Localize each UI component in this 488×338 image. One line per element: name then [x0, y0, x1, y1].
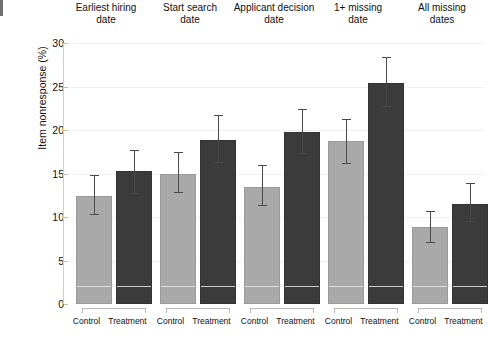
- plot-area: [316, 43, 400, 304]
- panel-title: All missingdates: [400, 2, 484, 26]
- x-axis-label-control: Control: [234, 316, 275, 326]
- error-bar-cap-lower: [382, 106, 391, 107]
- x-axis-labels: ControlTreatment: [400, 316, 484, 326]
- x-axis-labels: ControlTreatment: [232, 316, 316, 326]
- bar-control[interactable]: [328, 141, 364, 304]
- x-axis-label-treatment: Treatment: [359, 316, 400, 326]
- bar-control[interactable]: [160, 174, 196, 305]
- error-bar-cap-lower: [426, 242, 435, 243]
- panel-title-line-1: Earliest hiring: [64, 2, 148, 14]
- error-bar-cap-upper: [298, 109, 307, 110]
- bar-inner-reference-line: [77, 286, 111, 287]
- x-axis-group-bracket: [166, 308, 230, 313]
- error-bar: [470, 184, 471, 222]
- error-bar-cap-upper: [342, 119, 351, 120]
- error-bar: [218, 116, 219, 163]
- bar-treatment[interactable]: [200, 140, 236, 304]
- bar-inner-reference-line: [285, 286, 319, 287]
- x-axis-label-treatment: Treatment: [275, 316, 316, 326]
- y-axis: 051015202530: [20, 0, 64, 338]
- error-bar-cap-upper: [466, 183, 475, 184]
- bar-treatment[interactable]: [368, 83, 404, 304]
- x-axis-label-control: Control: [318, 316, 359, 326]
- panel-title: Earliest hiringdate: [64, 2, 148, 26]
- x-axis-group-bracket: [418, 308, 482, 313]
- x-axis-label-treatment: Treatment: [443, 316, 484, 326]
- error-bar-cap-lower: [130, 193, 139, 194]
- error-bar-cap-lower: [174, 192, 183, 193]
- x-axis-group-bracket: [250, 308, 314, 313]
- panel-title: Applicant decisiondate: [232, 2, 316, 26]
- left-edge-artifact: [0, 0, 3, 16]
- panel-title-line-2: dates: [400, 14, 484, 26]
- x-axis-label-control: Control: [402, 316, 443, 326]
- y-axis-tick-mark: [64, 217, 68, 218]
- y-axis-tick-mark: [64, 304, 68, 305]
- facet-panel: Applicant decisiondateControlTreatment: [232, 0, 316, 338]
- panel-title-line-1: Start search: [148, 2, 232, 14]
- error-bar: [430, 212, 431, 243]
- x-axis-labels: ControlTreatment: [316, 316, 400, 326]
- bar-inner-reference-line: [201, 286, 235, 287]
- error-bar-cap-lower: [90, 214, 99, 215]
- error-bar: [302, 110, 303, 154]
- x-axis-label-control: Control: [150, 316, 191, 326]
- x-axis-group-bracket: [334, 308, 398, 313]
- error-bar: [262, 166, 263, 206]
- x-axis-label-treatment: Treatment: [191, 316, 232, 326]
- panel-title-line-2: date: [148, 14, 232, 26]
- error-bar-cap-lower: [342, 163, 351, 164]
- facet-panel: 1+ missingdateControlTreatment: [316, 0, 400, 338]
- bar-inner-reference-line: [413, 286, 447, 287]
- bar-inner-reference-line: [369, 286, 403, 287]
- x-axis-labels: ControlTreatment: [64, 316, 148, 326]
- error-bar-cap-upper: [214, 115, 223, 116]
- y-axis-tick-mark: [64, 130, 68, 131]
- panel-title-line-2: date: [316, 14, 400, 26]
- panel-title: Start searchdate: [148, 2, 232, 26]
- y-axis-tick-mark: [64, 174, 68, 175]
- error-bar-cap-lower: [214, 162, 223, 163]
- error-bar-cap-upper: [130, 150, 139, 151]
- error-bar: [178, 153, 179, 193]
- x-axis-label-treatment: Treatment: [107, 316, 148, 326]
- bar-treatment[interactable]: [284, 132, 320, 304]
- plot-area: [232, 43, 316, 304]
- y-axis-tick-mark: [64, 43, 68, 44]
- error-bar-cap-upper: [258, 165, 267, 166]
- error-bar-cap-upper: [90, 175, 99, 176]
- plot-area: [400, 43, 484, 304]
- error-bar-cap-lower: [258, 205, 267, 206]
- error-bar-cap-upper: [174, 152, 183, 153]
- error-bar-cap-lower: [298, 153, 307, 154]
- panel-title: 1+ missingdate: [316, 2, 400, 26]
- bar-inner-reference-line: [117, 286, 151, 287]
- error-bar: [386, 58, 387, 108]
- panel-title-line-1: All missing: [400, 2, 484, 14]
- bar-inner-reference-line: [245, 286, 279, 287]
- facet-panel: Start searchdateControlTreatment: [148, 0, 232, 338]
- y-axis-tick-mark: [64, 87, 68, 88]
- x-axis-group-bracket: [82, 308, 146, 313]
- error-bar-cap-lower: [466, 221, 475, 222]
- error-bar: [134, 151, 135, 194]
- panel-title-line-2: date: [232, 14, 316, 26]
- y-axis-tick-mark: [64, 261, 68, 262]
- panel-row: Earliest hiringdateControlTreatmentStart…: [64, 0, 484, 338]
- bar-inner-reference-line: [453, 286, 487, 287]
- panel-title-line-1: Applicant decision: [232, 2, 316, 14]
- plot-area: [64, 43, 148, 304]
- bar-inner-reference-line: [329, 286, 363, 287]
- error-bar: [94, 176, 95, 215]
- facet-panel: All missingdatesControlTreatment: [400, 0, 484, 338]
- bar-inner-reference-line: [161, 286, 195, 287]
- x-axis-labels: ControlTreatment: [148, 316, 232, 326]
- facet-panel: Earliest hiringdateControlTreatment: [64, 0, 148, 338]
- plot-area: [148, 43, 232, 304]
- error-bar: [346, 120, 347, 164]
- error-bar-cap-upper: [382, 57, 391, 58]
- x-axis-label-control: Control: [66, 316, 107, 326]
- error-bar-cap-upper: [426, 211, 435, 212]
- panel-title-line-1: 1+ missing: [316, 2, 400, 14]
